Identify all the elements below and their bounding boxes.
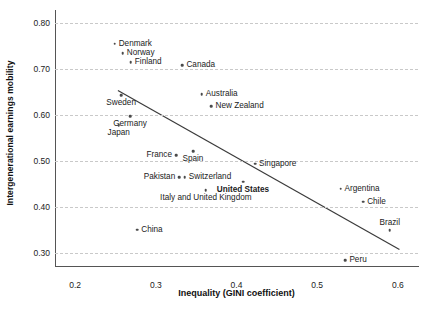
data-point: [192, 150, 195, 153]
data-point-label: China: [141, 226, 162, 234]
data-point-label: Peru: [349, 256, 366, 264]
data-point: [388, 229, 391, 232]
gridline-horizontal: [55, 115, 418, 116]
y-axis-title: Intergenerational earnings mobility: [0, 0, 20, 266]
data-point: [121, 52, 124, 55]
data-point: [242, 180, 245, 183]
data-point-label: Spain: [182, 155, 203, 163]
gridline-horizontal: [55, 69, 418, 70]
data-point: [178, 176, 181, 179]
data-point-label: France: [147, 151, 172, 159]
data-point-label: Denmark: [119, 40, 152, 48]
y-tick-label: 0.40: [33, 202, 50, 212]
data-point-label: Argentina: [345, 185, 380, 193]
gridline-horizontal: [55, 207, 418, 208]
data-point-label: Japan: [108, 129, 130, 137]
trend-line: [55, 10, 418, 266]
x-axis-title: Inequality (GINI coefficient): [55, 288, 418, 298]
data-point-label: Brazil: [380, 219, 400, 227]
gridline-horizontal: [55, 161, 418, 162]
data-point-label: Canada: [186, 61, 215, 69]
y-tick-label: 0.70: [33, 64, 50, 74]
y-tick-label: 0.80: [33, 18, 50, 28]
y-tick-label: 0.30: [33, 248, 50, 258]
data-point: [120, 94, 123, 97]
data-point-label: Australia: [206, 90, 238, 98]
data-point-label: Pakistan: [144, 173, 175, 181]
y-axis-title-text: Intergenerational earnings mobility: [5, 60, 15, 205]
y-tick-label: 0.60: [33, 110, 50, 120]
y-tick-label: 0.50: [33, 156, 50, 166]
data-point: [344, 259, 347, 262]
data-point: [210, 105, 213, 108]
data-point-label: Finland: [135, 58, 162, 66]
data-point: [175, 154, 178, 157]
data-point-label: Switzerland: [189, 173, 231, 181]
data-point-label: Chile: [367, 197, 386, 205]
data-point-label: Italy and United Kingdom: [160, 194, 251, 202]
gridline-horizontal: [55, 23, 418, 24]
data-point: [184, 176, 187, 179]
data-point: [339, 187, 342, 190]
data-point: [129, 115, 132, 118]
data-point: [117, 124, 120, 127]
data-point-label: New Zealand: [215, 102, 263, 110]
data-point: [205, 189, 208, 192]
data-point: [201, 93, 204, 96]
scatter-chart: Intergenerational earnings mobility 0.30…: [0, 0, 438, 309]
data-point: [130, 61, 133, 64]
data-point: [254, 162, 257, 165]
data-point: [113, 42, 116, 45]
data-point-label: Singapore: [259, 160, 296, 168]
data-point: [362, 200, 365, 203]
plot-area: 0.300.400.500.600.700.800.20.30.40.50.6D…: [55, 10, 418, 266]
data-point-label: Sweden: [106, 99, 136, 107]
data-point: [136, 228, 139, 231]
x-axis-line: [55, 266, 419, 267]
data-point: [181, 64, 184, 67]
